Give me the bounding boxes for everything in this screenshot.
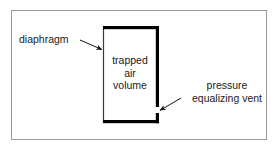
label-diaphragm: diaphragm bbox=[19, 34, 69, 46]
label-trapped-air-volume-line-3: volume bbox=[113, 79, 147, 91]
chamber-bottom-wall bbox=[103, 120, 159, 123]
chamber-top-wall bbox=[103, 26, 159, 29]
chamber-right-wall-lower bbox=[156, 113, 159, 123]
label-trapped-air-volume-line-2: air bbox=[124, 67, 136, 79]
pressure-equalizing-vent-gap bbox=[156, 107, 159, 113]
label-pressure-equalizing-vent-line-1: pressure bbox=[207, 79, 248, 91]
label-pressure-equalizing-vent-line-2: equalizing vent bbox=[192, 92, 262, 104]
label-pressure-equalizing-vent: pressureequalizing vent bbox=[183, 79, 271, 104]
diagram-canvas: diaphragm trappedairvolume pressureequal… bbox=[0, 0, 277, 153]
label-trapped-air-volume: trappedairvolume bbox=[106, 54, 154, 92]
chamber-right-wall-upper bbox=[156, 26, 159, 107]
label-trapped-air-volume-line-1: trapped bbox=[112, 54, 148, 66]
